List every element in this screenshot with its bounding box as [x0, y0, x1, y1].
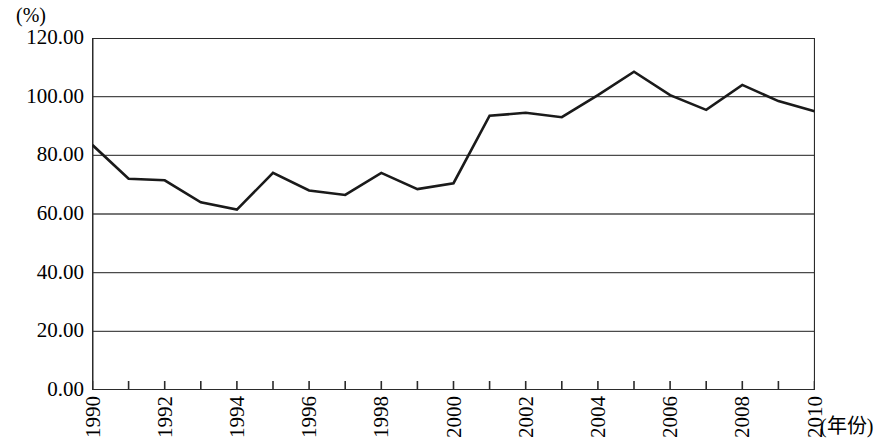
x-axis-tick-label: 2000: [444, 396, 465, 438]
x-axis-tick-labels: 1990199219941996199820002002200420062008…: [0, 0, 885, 446]
line-chart: (%) 120.00100.0080.0060.0040.0020.000.00…: [0, 0, 885, 446]
x-axis-tick-label: 1992: [155, 396, 176, 438]
x-axis-tick-label: 2002: [516, 396, 537, 438]
x-axis-tick-label: 2004: [588, 396, 609, 438]
x-axis-tick-label: 1994: [227, 396, 248, 438]
x-axis-tick-label: 1998: [371, 396, 392, 438]
x-axis-unit-label: (年份): [820, 410, 873, 439]
x-axis-tick-label: 1996: [299, 396, 320, 438]
x-axis-tick-label: 1990: [83, 396, 104, 438]
x-axis-tick-label: 2008: [732, 396, 753, 438]
x-axis-tick-label: 2006: [660, 396, 681, 438]
